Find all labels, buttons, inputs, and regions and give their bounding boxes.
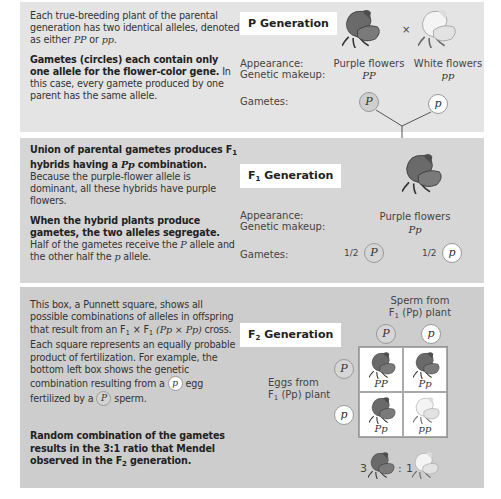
inline-egg-p-circle: p: [168, 376, 183, 391]
union-heading-geno: Pp: [121, 159, 135, 170]
f2-label-prefix: F: [248, 328, 256, 341]
union-heading-sub: 1: [232, 149, 237, 157]
f1-generation-description: Union of parental gametes produces F1 hy…: [30, 144, 240, 269]
f1-gamete-p-circle: p: [442, 243, 462, 263]
f1-generation-panel: Union of parental gametes produces F1 hy…: [20, 138, 484, 283]
ratio-purple-count: 3: [360, 463, 367, 475]
punnett-square: PP Pp Pp pp: [358, 346, 448, 438]
dominance-body: Because the purple-flower allele is domi…: [30, 171, 216, 206]
ratio-separator: :: [398, 463, 402, 475]
egg-P-circle: P: [334, 359, 354, 379]
f1-gamete-P-circle: P: [364, 243, 384, 263]
punnett-purple-flower-icon: [369, 396, 397, 424]
f1-gamete-fraction-1: 1/2: [344, 248, 358, 258]
sperm-label-line2: F1 (Pp) plant: [370, 307, 470, 322]
f1-genotype: Pp: [365, 224, 465, 235]
sperm-label-line1: Sperm from: [370, 295, 470, 307]
punnett-cell-Pp-bottom: Pp: [359, 392, 403, 437]
punnett-genotype: Pp: [404, 378, 446, 389]
punnett-genotype: PP: [360, 378, 402, 389]
f1-label-prefix: F: [248, 169, 256, 182]
union-heading-a: Union of parental gametes produces F: [30, 144, 232, 155]
inline-sperm-P-circle: P: [96, 391, 111, 406]
sperm-P-circle: P: [376, 324, 396, 344]
eggs-label-line1: Eggs from: [268, 377, 330, 389]
sperm-label-rest: (Pp) plant: [399, 307, 451, 318]
union-heading-c: combination.: [135, 159, 207, 170]
eggs-label: Eggs from F1 (Pp) plant: [268, 377, 330, 404]
f1-gamete-fraction-2: 1/2: [422, 248, 436, 258]
f1-generation-label: F1 Generation: [240, 164, 341, 188]
punnett-body-x: × F: [130, 324, 149, 335]
sperm-label: Sperm from F1 (Pp) plant: [370, 295, 470, 322]
ratio-heading-b: generation.: [127, 455, 191, 466]
f1-purple-flower-icon: [402, 152, 444, 194]
f1-appearance: Purple flowers: [365, 211, 465, 223]
punnett-genotype: Pp: [360, 423, 402, 434]
f2-generation-description: This box, a Punnett square, shows all po…: [30, 299, 240, 477]
f2-label-suffix: Generation: [260, 328, 333, 341]
union-heading-b: hybrids having a: [30, 159, 121, 170]
eggs-label-rest: (Pp) plant: [278, 389, 330, 400]
punnett-purple-flower-icon: [413, 351, 441, 379]
eggs-label-line2: F1 (Pp) plant: [268, 389, 330, 404]
segregation-body-c: allele.: [120, 251, 151, 262]
punnett-cross: (Pp × Pp): [153, 324, 201, 335]
f1-gametes-label: Gametes:: [240, 249, 288, 261]
punnett-cell-Pp-top: Pp: [403, 347, 447, 392]
f1-label-suffix: Generation: [260, 169, 333, 182]
union-heading: Union of parental gametes produces F1 hy…: [30, 144, 237, 170]
punnett-white-flower-icon: [413, 396, 441, 424]
f1-genetic-makeup-label: Genetic makeup:: [240, 221, 325, 233]
punnett-cell-pp: pp: [403, 392, 447, 437]
egg-p-circle: p: [334, 405, 354, 425]
ratio-white-flower-icon: [412, 451, 440, 479]
punnett-genotype: pp: [404, 423, 446, 434]
gamete-union-arrow: [0, 0, 501, 160]
segregation-body-a: Half of the gametes receive the: [30, 239, 180, 250]
punnett-purple-flower-icon: [369, 351, 397, 379]
ratio-heading: Random combination of the gametes result…: [30, 430, 240, 470]
segregation-heading: When the hybrid plants produce gametes, …: [30, 215, 220, 238]
sperm-p-circle: p: [421, 324, 441, 344]
punnett-cell-PP: PP: [359, 347, 403, 392]
f2-generation-label: F2 Generation: [240, 323, 341, 347]
ratio-purple-flower-icon: [368, 451, 396, 479]
punnett-body-4: sperm.: [111, 393, 146, 404]
